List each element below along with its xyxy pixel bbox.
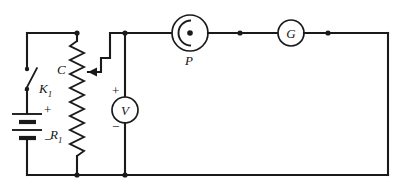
photocell-anode <box>187 30 193 36</box>
switch-blade[interactable] <box>26 68 38 90</box>
wiper-label: C <box>57 63 66 76</box>
rheostat-zigzag[interactable] <box>70 41 84 156</box>
switch-label: K1 <box>39 82 52 98</box>
node-bottom-rheostat <box>74 172 79 177</box>
switch-contact-top[interactable] <box>25 67 29 71</box>
node-wire-right-of-photocell <box>237 30 242 35</box>
node-bottom-voltmeter <box>122 172 127 177</box>
battery-plus-sign: + <box>44 103 51 116</box>
switch-label-letter: K <box>39 81 48 96</box>
circuit-svg: G V <box>0 0 394 191</box>
photocell-label: P <box>185 54 193 67</box>
circuit-diagram: G V K1 + − R1 C + − P <box>0 0 394 191</box>
rheostat-label-subscript: 1 <box>58 135 62 145</box>
wiper-arrowhead[interactable] <box>88 68 97 77</box>
voltmeter-plus-sign: + <box>112 84 119 97</box>
galvanometer-label: G <box>286 26 296 41</box>
wiper-lead[interactable] <box>88 33 125 72</box>
rheostat-label: R1 <box>50 128 62 144</box>
node-wire-right-of-galvanometer <box>325 30 330 35</box>
rheostat-label-letter: R <box>50 127 58 142</box>
node-top-rheostat <box>74 30 79 35</box>
switch-label-subscript: 1 <box>48 89 52 99</box>
voltmeter-minus-sign: − <box>112 120 119 133</box>
